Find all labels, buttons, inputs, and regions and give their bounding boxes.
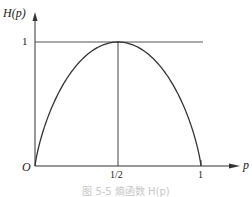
chart-canvas [0,0,252,197]
y-axis-arrow-icon [33,12,38,21]
x-axis-label: p [243,158,249,173]
x-axis-arrow-icon [229,164,240,169]
x-tick-1: 1 [198,169,203,180]
y-tick-1: 1 [22,35,28,47]
figure-caption: 图 5-5 熵函数 H(p) [0,183,252,197]
y-axis-label: H(p) [3,6,26,21]
x-tick-half: 1/2 [110,169,123,180]
origin-label: O [22,160,31,175]
